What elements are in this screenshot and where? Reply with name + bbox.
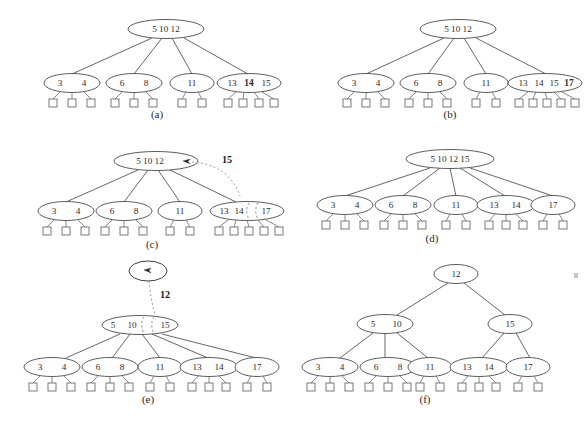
leaf-b-c1-1: [343, 99, 351, 107]
node-e-c3-key1: 11: [156, 362, 165, 372]
promote-curve-c: [192, 162, 240, 196]
node-d-c1-key1: 3: [331, 200, 336, 210]
node-c-root-keys: 5 10 12: [136, 156, 164, 166]
leaf-a-c2-2: [130, 99, 138, 107]
leaf-d-c2-1: [380, 221, 388, 229]
leaf-c-c1-1: [43, 227, 51, 235]
leafedge-b-c4-3: [545, 92, 547, 99]
leaf-c-c3-2: [186, 227, 194, 235]
leafedge-a-c4-1: [228, 92, 236, 99]
node-d-c5-key1: 17: [548, 200, 558, 210]
node-d-c3-key1: 11: [452, 200, 461, 210]
leaf-d-c4-2: [502, 221, 510, 229]
leaf-e-c2-1: [87, 383, 95, 391]
node-b-c2: [400, 74, 456, 93]
leaf-a-c4-3: [255, 99, 263, 107]
panel-f-caption: (f): [420, 393, 431, 406]
leafedge-f-c4-3: [489, 376, 496, 383]
leaf-f-c3-1: [416, 383, 424, 391]
leaf-a-c1-2: [68, 99, 76, 107]
node-a-c2: [106, 74, 162, 93]
leafedge-e-c5-2: [263, 376, 267, 383]
leaf-b-c3-1: [472, 99, 480, 107]
leafedge-d-c4-3: [516, 214, 523, 221]
node-f-i1: [357, 315, 413, 334]
edge-b-4: [476, 38, 546, 74]
edge-a-4: [184, 38, 248, 74]
node-f-c3-key1: 11: [426, 362, 435, 372]
leaf-e-c1-2: [48, 383, 56, 391]
node-a-c4-key3: 15: [261, 78, 271, 88]
node-e-c5-key1: 17: [252, 362, 262, 372]
leafedge-c-c4-3: [247, 220, 249, 227]
node-a-c1-key1: 3: [58, 78, 63, 88]
leafedge-b-c3-2: [492, 92, 496, 99]
leafedge-e-c2-1: [91, 376, 98, 383]
leafedge-b-c4-1: [519, 92, 528, 99]
node-e-c1-key1: 3: [38, 362, 43, 372]
leafedge-b-c2-1: [409, 92, 416, 99]
panel-d-caption: (d): [426, 232, 439, 245]
leafedge-d-c1-3: [357, 214, 364, 221]
leafedge-e-c1-1: [33, 376, 40, 383]
leafedge-a-c2-3: [146, 92, 153, 99]
leaf-b-c3-2: [492, 99, 500, 107]
node-f-i2-key1: 15: [505, 319, 515, 329]
leaf-b-c4-2: [529, 99, 537, 107]
node-a-c3-key1: 11: [188, 78, 197, 88]
edge-f-i1-1: [340, 333, 373, 358]
panel-e-promoted-key: 12: [160, 289, 170, 300]
node-a-c4-key1: 13: [227, 78, 237, 88]
leaf-e-c4-3: [222, 383, 230, 391]
edge-e-1: [66, 334, 120, 358]
node-f-c4: [450, 358, 508, 377]
leafedge-f-c4-1: [462, 376, 468, 383]
node-c-c4-key2: 14: [234, 206, 244, 216]
leaf-f-c5-2: [534, 383, 542, 391]
leaf-c-c3-1: [166, 227, 174, 235]
leaf-d-c4-1: [485, 221, 493, 229]
leafedge-f-c2-3: [400, 376, 407, 383]
leafedge-f-c5-1: [518, 376, 522, 383]
panel-c-promoted-key: 15: [222, 154, 232, 165]
node-e-c2-key1: 6: [96, 362, 101, 372]
node-f-root-key: 12: [451, 269, 461, 279]
node-a-root-keys: 5 10 12: [152, 24, 180, 34]
node-d-c2: [375, 196, 431, 215]
leaf-c-c2-3: [139, 227, 147, 235]
node-b-c3-key1: 11: [482, 78, 491, 88]
node-b-c4-key4: 17: [564, 78, 574, 88]
node-b-c2-key1: 6: [414, 78, 419, 88]
node-b-c1: [338, 74, 394, 93]
panel-c-caption: (c): [146, 238, 159, 251]
edge-e-5: [162, 334, 256, 358]
node-b-c4-key2: 14: [534, 78, 544, 88]
leaf-a-c1-3: [87, 99, 95, 107]
node-e-c1-key2: 4: [62, 362, 67, 372]
leaf-b-c4-5: [571, 99, 579, 107]
leaf-d-c4-3: [519, 221, 527, 229]
leaf-a-c2-3: [149, 99, 157, 107]
leaf-d-c1-2: [341, 221, 349, 229]
leaf-d-c5-2: [559, 221, 567, 229]
leafedge-e-c1-3: [64, 376, 71, 383]
leaf-e-c2-3: [125, 383, 133, 391]
leafedge-a-c1-3: [84, 92, 91, 99]
leaf-e-c3-2: [166, 383, 174, 391]
node-e-mid-key3: 15: [160, 320, 170, 330]
edge-e-4: [152, 334, 208, 358]
node-b-c1-key2: 4: [376, 78, 381, 88]
leaf-a-c4-4: [270, 99, 278, 107]
node-b-c4-key1: 13: [518, 78, 528, 88]
edge-f-root-right: [464, 283, 505, 315]
node-f-i1-key1: 5: [371, 319, 376, 329]
leafedge-e-c3-1: [150, 376, 154, 383]
leaf-a-c3-1: [178, 99, 186, 107]
node-f-c4-key2: 14: [484, 362, 494, 372]
leafedge-c-c1-3: [78, 220, 85, 227]
leaf-a-c3-2: [198, 99, 206, 107]
node-f-i1-key2: 10: [392, 319, 402, 329]
node-c-c1: [38, 202, 94, 221]
panel-e: 12 5 10 15 3 4 6 8 11: [24, 261, 279, 406]
node-e-c2: [82, 358, 138, 377]
